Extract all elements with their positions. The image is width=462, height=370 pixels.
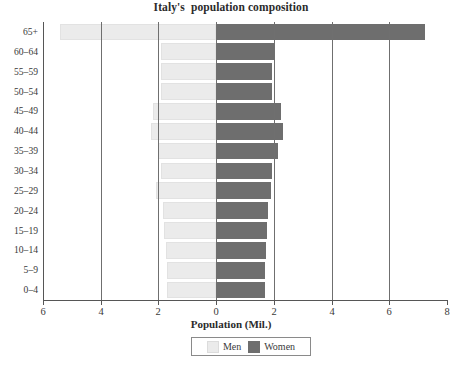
x-tick-label: 6	[30, 306, 56, 317]
x-tick-label: 4	[88, 306, 114, 317]
x-tick-mark	[158, 301, 159, 305]
bar-men-25-29	[156, 182, 217, 199]
population-pyramid-chart: Italy's population composition 64202468 …	[0, 0, 462, 370]
bar-women-0-4	[216, 282, 264, 299]
bar-women-40-44	[216, 123, 282, 140]
y-axis-label-35-39: 35–39	[0, 145, 38, 156]
x-tick-mark	[447, 301, 448, 305]
x-tick-label: 2	[261, 306, 287, 317]
bar-men-35-39	[158, 143, 216, 160]
gridline	[216, 22, 217, 300]
bar-men-60-64	[161, 43, 216, 60]
x-tick-label: 6	[376, 306, 402, 317]
legend-label-women: Women	[264, 341, 295, 352]
x-tick-label: 4	[319, 306, 345, 317]
bar-men-30-34	[161, 163, 216, 180]
x-tick-label: 0	[203, 306, 229, 317]
bar-men-55-59	[161, 63, 216, 80]
legend-item-men: Men	[207, 341, 241, 353]
gridline	[332, 22, 333, 300]
plot-area	[43, 22, 447, 300]
bar-women-55-59	[216, 63, 272, 80]
x-tick-mark	[43, 301, 44, 305]
chart-title: Italy's population composition	[0, 1, 462, 13]
y-axis-label-10-14: 10–14	[0, 244, 38, 255]
bar-women-45-49	[216, 103, 281, 120]
y-axis-label-25-29: 25–29	[0, 185, 38, 196]
bar-women-35-39	[216, 143, 278, 160]
y-axis-label-60-64: 60–64	[0, 46, 38, 57]
bar-men-15-19	[164, 222, 216, 239]
x-tick-mark	[274, 301, 275, 305]
legend-item-women: Women	[248, 341, 295, 353]
legend-swatch-men-icon	[207, 341, 219, 353]
legend-swatch-women-icon	[248, 341, 260, 353]
bar-men-20-24	[163, 202, 216, 219]
y-axis-label-50-54: 50–54	[0, 86, 38, 97]
x-tick-label: 8	[434, 306, 460, 317]
bar-men-5-9	[167, 262, 216, 279]
bar-men-50-54	[161, 83, 216, 100]
x-axis-title: Population (Mil.)	[0, 318, 462, 330]
y-axis-label-30-34: 30–34	[0, 165, 38, 176]
gridline	[389, 22, 390, 300]
bar-women-20-24	[216, 202, 268, 219]
bar-women-15-19	[216, 222, 267, 239]
gridline	[274, 22, 275, 300]
y-axis-label-0-4: 0–4	[0, 284, 38, 295]
y-axis-label-15-19: 15–19	[0, 225, 38, 236]
bar-men-10-14	[166, 242, 217, 259]
bar-women-30-34	[216, 163, 272, 180]
bar-women-5-9	[216, 262, 265, 279]
bar-women-25-29	[216, 182, 271, 199]
bar-women-60-64	[216, 43, 274, 60]
y-axis-label-5-9: 5–9	[0, 264, 38, 275]
bar-women-65	[216, 24, 425, 41]
gridline	[101, 22, 102, 300]
y-axis-label-45-49: 45–49	[0, 105, 38, 116]
legend-label-men: Men	[223, 341, 241, 352]
gridline	[158, 22, 159, 300]
bar-men-45-49	[153, 103, 216, 120]
y-axis-label-55-59: 55–59	[0, 66, 38, 77]
x-tick-mark	[332, 301, 333, 305]
x-tick-mark	[216, 301, 217, 305]
bar-women-50-54	[216, 83, 272, 100]
bar-men-65	[60, 24, 216, 41]
x-tick-mark	[101, 301, 102, 305]
x-axis-line	[43, 300, 448, 301]
x-tick-mark	[389, 301, 390, 305]
y-axis-label-65: 65+	[0, 26, 38, 37]
y-axis-label-20-24: 20–24	[0, 205, 38, 216]
bar-men-0-4	[167, 282, 216, 299]
y-axis-label-40-44: 40–44	[0, 125, 38, 136]
x-tick-label: 2	[145, 306, 171, 317]
bar-men-40-44	[151, 123, 216, 140]
bar-women-10-14	[216, 242, 266, 259]
chart-legend: Men Women	[191, 337, 311, 356]
